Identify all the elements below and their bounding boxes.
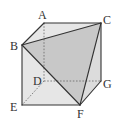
label-d: D [33,74,42,88]
label-e: E [10,100,17,114]
label-a: A [38,8,47,22]
label-c: C [103,13,111,27]
cube-diagram: A C B D G E F [0,0,124,129]
label-f: F [77,107,84,121]
label-g: G [103,77,112,91]
label-b: B [10,39,18,53]
